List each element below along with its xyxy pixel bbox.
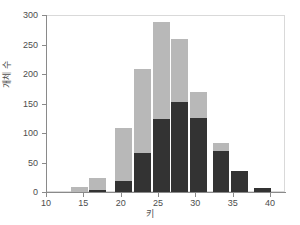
y-tick-mark: [42, 133, 46, 134]
x-tick-label: 35: [221, 199, 245, 208]
y-tick-mark: [42, 163, 46, 164]
bar-group: [213, 143, 230, 192]
bar-group: [89, 178, 106, 192]
x-axis-label: 키: [0, 209, 300, 219]
y-tick-label: 250: [0, 41, 38, 50]
bar-segment-upper: [134, 69, 151, 153]
x-tick-label: 40: [258, 199, 282, 208]
x-tick-label: 10: [34, 199, 58, 208]
y-tick-label: 50: [0, 159, 38, 168]
bar-group: [254, 188, 271, 192]
x-tick-mark: [195, 193, 196, 197]
y-tick-mark: [42, 74, 46, 75]
x-tick-label: 25: [146, 199, 170, 208]
bar-group: [153, 22, 170, 193]
bar-segment-lower: [190, 118, 207, 192]
bar-group: [231, 171, 248, 192]
x-tick-mark: [270, 193, 271, 197]
bar-group: [171, 39, 188, 192]
bars-layer: [46, 15, 285, 192]
bar-segment-lower: [115, 181, 132, 192]
x-tick-label: 30: [183, 199, 207, 208]
y-tick-mark: [42, 15, 46, 16]
bar-segment-upper: [171, 39, 188, 103]
y-tick-mark: [42, 104, 46, 105]
bar-group: [115, 128, 132, 192]
x-axis-spine: [46, 192, 286, 193]
x-tick-mark: [158, 193, 159, 197]
x-tick-mark: [233, 193, 234, 197]
bar-segment-lower: [213, 151, 230, 192]
y-tick-label: 300: [0, 11, 38, 20]
bar-segment-lower: [153, 119, 170, 192]
bar-group: [190, 92, 207, 192]
chart-figure: 050100150200250300 10152025303540 개체 수 키: [0, 0, 300, 225]
bar-group: [134, 69, 151, 192]
y-axis-label: 개체 수: [2, 61, 12, 88]
bar-segment-upper: [190, 92, 207, 119]
y-tick-label: 0: [0, 188, 38, 197]
y-tick-mark: [42, 45, 46, 46]
bar-segment-upper: [71, 187, 88, 192]
x-tick-mark: [46, 193, 47, 197]
bar-segment-upper: [213, 143, 230, 151]
bar-segment-lower: [254, 188, 271, 192]
bar-segment-upper: [115, 128, 132, 181]
x-tick-mark: [83, 193, 84, 197]
x-tick-label: 20: [109, 199, 133, 208]
bar-group: [71, 187, 88, 192]
y-tick-label: 150: [0, 100, 38, 109]
x-tick-label: 15: [71, 199, 95, 208]
bar-segment-lower: [134, 153, 151, 192]
bar-segment-lower: [171, 102, 188, 192]
bar-segment-upper: [153, 22, 170, 120]
bar-segment-lower: [89, 190, 106, 192]
y-tick-label: 100: [0, 129, 38, 138]
x-tick-mark: [121, 193, 122, 197]
bar-segment-lower: [231, 171, 248, 192]
bar-segment-upper: [89, 178, 106, 190]
